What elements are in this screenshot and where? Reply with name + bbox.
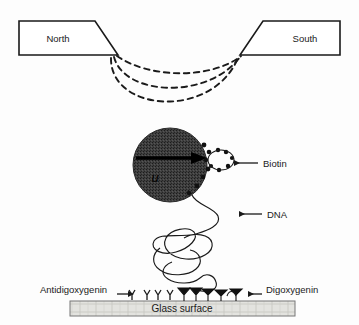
glass-surface: Glass surface: [70, 301, 295, 316]
digoxygenin-label: Digoxygenin: [266, 284, 318, 295]
magnetic-bead: u: [133, 128, 207, 202]
biotin-dot: [187, 191, 192, 196]
bead-body: [133, 128, 207, 202]
north-pole-label: North: [46, 33, 69, 44]
biotin-dot: [195, 184, 200, 189]
biotin-dot: [201, 175, 206, 180]
biotin-dot: [202, 143, 207, 148]
dna-label: DNA: [267, 209, 288, 220]
antidigoxygenin-label: Antidigoxygenin: [40, 284, 107, 295]
magnetic-tweezers-diagram: North South u: [0, 0, 359, 325]
biotin-label: Biotin: [263, 158, 287, 169]
glass-surface-label: Glass surface: [151, 303, 213, 314]
magnetic-moment-label: u: [151, 170, 158, 185]
south-pole-label: South: [293, 33, 318, 44]
